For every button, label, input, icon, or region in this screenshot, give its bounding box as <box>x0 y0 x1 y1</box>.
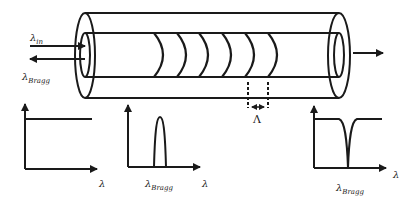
lambda-in-label: λin <box>30 26 43 46</box>
chart1-x-axis-label: λ <box>99 172 105 191</box>
grating-fringes <box>154 33 277 77</box>
reflected-spectrum-chart <box>128 105 200 167</box>
input-spectrum-chart <box>25 104 97 169</box>
chart3-bragg-tick-label: λBragg <box>336 176 364 196</box>
grating-period-marker <box>248 82 268 108</box>
transmitted-spectrum-chart <box>314 106 386 168</box>
fiber-illustration <box>0 0 416 200</box>
fbg-diagram: λin λBragg Λ λ λBragg λ λBragg λ <box>0 0 416 200</box>
chart2-bragg-tick-label: λBragg <box>145 172 173 192</box>
chart2-x-axis-label: λ <box>202 172 208 191</box>
chart3-x-axis-label: λ <box>393 163 399 182</box>
lambda-bragg-reflected-label: λBragg <box>22 65 50 85</box>
cladding <box>75 13 350 98</box>
core <box>80 33 344 77</box>
grating-period-label: Λ <box>253 113 261 126</box>
